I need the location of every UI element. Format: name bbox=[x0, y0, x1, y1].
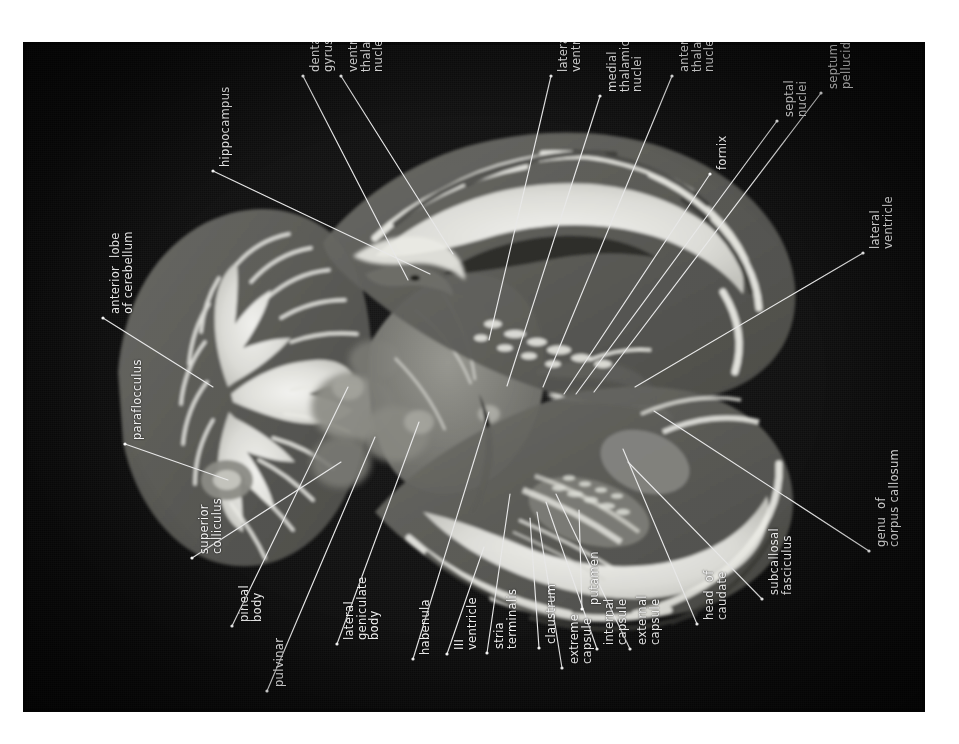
label-anterior-lobe-of-cerebellum: anterior lobeof cerebellum bbox=[109, 231, 134, 314]
label-line: medial bbox=[606, 42, 619, 92]
label-line: pellucidum bbox=[840, 42, 853, 89]
label-lateral-geniculate-body: lateralgeniculatebody bbox=[343, 577, 381, 640]
label-line: colliculus bbox=[211, 498, 224, 554]
label-paraflocculus: paraflocculus bbox=[131, 359, 144, 440]
label-line: habenula bbox=[419, 599, 432, 655]
label-pulvinar: pulvinar bbox=[273, 638, 286, 687]
label-line: corpus callosum bbox=[888, 449, 901, 547]
label-line: anterior bbox=[678, 42, 691, 72]
label-medial-thalamic-nuclei: medialthalamicnuclei bbox=[606, 42, 644, 92]
label-stria-terminalis: striaterminalis bbox=[493, 589, 518, 649]
label-putamen: putamen bbox=[588, 551, 601, 605]
label-line: nuclei bbox=[631, 42, 644, 92]
label-line: septum bbox=[827, 42, 840, 89]
label-line: fasciculus bbox=[781, 528, 794, 595]
label-line: ventricle bbox=[466, 597, 479, 650]
label-line: lateral bbox=[343, 577, 356, 640]
figure-page: dentategyrusventralthalamicnucleihippoca… bbox=[0, 0, 959, 744]
label-internal-capsule: internalcapsule bbox=[603, 598, 628, 645]
label-line: subcallosal bbox=[768, 528, 781, 595]
label-line: body bbox=[368, 577, 381, 640]
label-line: dentate bbox=[309, 42, 322, 72]
label-head-of-caudate: head ofcaudate bbox=[703, 570, 728, 620]
label-line: gyrus bbox=[322, 42, 335, 72]
label-line: superior bbox=[198, 498, 211, 554]
label-septum-pellucidum: septumpellucidum bbox=[827, 42, 852, 89]
label-line: paraflocculus bbox=[131, 359, 144, 440]
label-lateral-ventricle-2: lateralventricle bbox=[869, 196, 894, 249]
label-pineal-body: pinealbody bbox=[238, 585, 263, 622]
label-line: ventral bbox=[347, 42, 360, 72]
label-line: fornix bbox=[716, 135, 729, 170]
brain-section-plate: dentategyrusventralthalamicnucleihippoca… bbox=[23, 42, 925, 712]
label-habenula: habenula bbox=[419, 599, 432, 655]
label-line: head of bbox=[703, 570, 716, 620]
label-hippocampus: hippocampus bbox=[219, 86, 232, 167]
label-line: extreme bbox=[568, 614, 581, 664]
label-extreme-capsule: extremecapsule bbox=[568, 614, 593, 664]
label-genu-of-corpus-callosum: genu ofcorpus callosum bbox=[875, 449, 900, 547]
label-line: nuclei bbox=[372, 42, 385, 72]
label-iii-ventricle: ΙΙΙventricle bbox=[453, 597, 478, 650]
label-line: putamen bbox=[588, 551, 601, 605]
label-line: internal bbox=[603, 598, 616, 645]
label-line: capsule bbox=[649, 595, 662, 645]
label-lateral-ventricle-1: lateralventricle bbox=[557, 42, 582, 72]
label-anterior-thalamic-nuclei: anteriorthalamicnuclei bbox=[678, 42, 716, 72]
label-line: nuclei bbox=[796, 80, 809, 117]
label-superior-colliculus: superiorcolliculus bbox=[198, 498, 223, 554]
label-fornix: fornix bbox=[716, 135, 729, 170]
label-line: pulvinar bbox=[273, 638, 286, 687]
label-line: ventricle bbox=[570, 42, 583, 72]
label-line: septal bbox=[783, 80, 796, 117]
label-line: terminalis bbox=[506, 589, 519, 649]
label-line: pineal bbox=[238, 585, 251, 622]
label-line: nuclei bbox=[703, 42, 716, 72]
label-claustrum: claustrum bbox=[545, 584, 558, 644]
label-line: body bbox=[251, 585, 264, 622]
label-line: anterior lobe bbox=[109, 231, 122, 314]
label-line: caudate bbox=[716, 570, 729, 620]
label-line: stria bbox=[493, 589, 506, 649]
label-line: ventricle bbox=[882, 196, 895, 249]
label-line: lateral bbox=[869, 196, 882, 249]
label-external-capsule: externalcapsule bbox=[636, 595, 661, 645]
label-septal-nuclei: septalnuclei bbox=[783, 80, 808, 117]
label-line: claustrum bbox=[545, 584, 558, 644]
label-line: genu of bbox=[875, 449, 888, 547]
label-line: ΙΙΙ bbox=[453, 597, 466, 650]
label-line: lateral bbox=[557, 42, 570, 72]
label-ventral-thalamic-nuclei: ventralthalamicnuclei bbox=[347, 42, 385, 72]
label-line: capsule bbox=[581, 614, 594, 664]
label-line: external bbox=[636, 595, 649, 645]
label-line: of cerebellum bbox=[122, 231, 135, 314]
label-line: capsule bbox=[616, 598, 629, 645]
label-dentate-gyrus: dentategyrus bbox=[309, 42, 334, 72]
label-subcallosal-fasciculus: subcallosalfasciculus bbox=[768, 528, 793, 595]
label-line: hippocampus bbox=[219, 86, 232, 167]
